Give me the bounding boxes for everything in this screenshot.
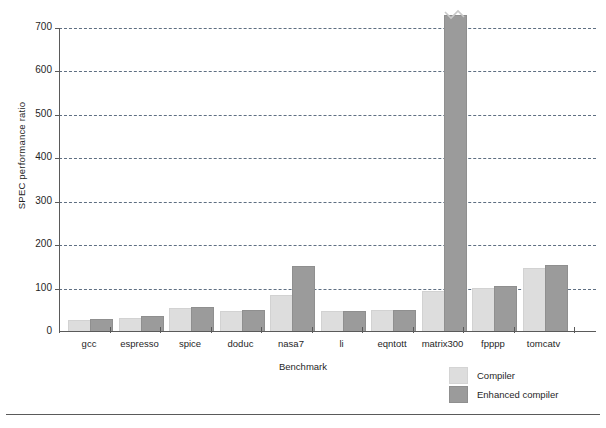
y-tick-label-0: 0 <box>8 325 52 336</box>
chart-legend: CompilerEnhanced compiler <box>449 366 558 404</box>
x-tick <box>211 327 212 333</box>
x-tick-label-spice: spice <box>179 338 201 349</box>
y-tick-label-400: 400 <box>8 151 52 162</box>
x-tick <box>261 327 262 333</box>
bar <box>472 288 495 331</box>
footer-divider <box>6 414 600 415</box>
x-axis-line <box>59 331 596 332</box>
legend-item: Compiler <box>449 366 558 385</box>
legend-swatch-icon <box>449 367 468 384</box>
bar <box>545 265 568 331</box>
bar <box>292 266 315 331</box>
bar-group <box>169 27 212 331</box>
bar-group <box>119 27 162 331</box>
x-tick-label-fpppp: fpppp <box>481 338 505 349</box>
x-tick-label-li: li <box>339 338 343 349</box>
x-tick-label-nasa7: nasa7 <box>278 338 304 349</box>
y-tick-label-600: 600 <box>8 64 52 75</box>
bar <box>422 291 445 331</box>
bar <box>321 311 344 331</box>
x-tick <box>574 327 575 333</box>
legend-label: Compiler <box>477 370 515 381</box>
x-tick-label-eqntott: eqntott <box>377 338 406 349</box>
x-tick <box>514 327 515 333</box>
x-tick <box>362 327 363 333</box>
y-tick-label-500: 500 <box>8 108 52 119</box>
bar-group <box>371 27 414 331</box>
y-tick-label-300: 300 <box>8 195 52 206</box>
x-tick <box>160 327 161 333</box>
x-tick-label-gcc: gcc <box>82 338 97 349</box>
bar <box>169 308 192 331</box>
bar <box>523 268 546 331</box>
bar <box>119 318 142 331</box>
bar <box>494 286 517 331</box>
bar <box>220 311 243 331</box>
y-tick-label-200: 200 <box>8 238 52 249</box>
x-tick-label-espresso: espresso <box>120 338 159 349</box>
x-tick <box>413 327 414 333</box>
bar <box>444 15 467 331</box>
x-tick <box>463 327 464 333</box>
x-tick-label-matrix300: matrix300 <box>422 338 464 349</box>
x-tick-label-doduc: doduc <box>228 338 254 349</box>
bar-group <box>321 27 364 331</box>
bar <box>68 320 91 331</box>
legend-swatch-icon <box>449 386 468 403</box>
bar-group <box>220 27 263 331</box>
plot-area: gccespressospicedoducnasa7lieqntottmatri… <box>59 28 596 332</box>
bar-group <box>68 27 111 331</box>
legend-item: Enhanced compiler <box>449 385 558 404</box>
bar-group <box>422 27 465 331</box>
bar-group <box>270 27 313 331</box>
legend-label: Enhanced compiler <box>477 389 558 400</box>
x-tick-label-tomcatv: tomcatv <box>527 338 560 349</box>
x-tick <box>312 327 313 333</box>
y-tick-label-700: 700 <box>8 21 52 32</box>
bar-group <box>523 27 566 331</box>
bar <box>371 310 394 331</box>
bar-group <box>472 27 515 331</box>
x-tick <box>59 327 60 333</box>
y-axis-line <box>59 28 60 332</box>
x-tick <box>110 327 111 333</box>
chart-figure: SPEC performance ratio gccespressospiced… <box>0 0 606 428</box>
y-tick-label-100: 100 <box>8 282 52 293</box>
bar <box>270 295 293 331</box>
